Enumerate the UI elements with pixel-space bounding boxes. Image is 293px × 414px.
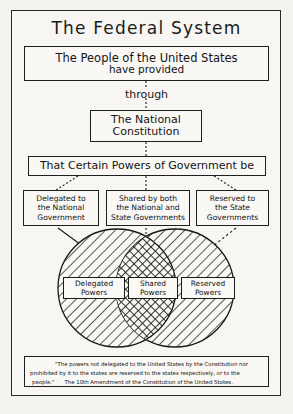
quote-line1: "The powers not delegated to the United …: [55, 361, 248, 367]
quote-line3: people.": [32, 379, 54, 385]
connector-powers-to-delegated: [56, 176, 78, 190]
venn-shared-line1: Shared: [140, 279, 166, 288]
connector-powers-to-reserved: [214, 176, 236, 190]
venn-label-reserved: Reserved Powers: [181, 277, 235, 299]
quote-line4: The 10th Amendment of the Constitution o…: [64, 379, 232, 385]
venn-label-delegated: Delegated Powers: [63, 277, 125, 299]
venn-shared-line2: Powers: [140, 288, 166, 297]
venn-reserved-line1: Reserved: [191, 279, 225, 288]
venn-delegated-line1: Delegated: [75, 279, 113, 288]
quote-line2: prohibited by it to the states are reser…: [30, 370, 240, 376]
amendment-quote-box: "The powers not delegated to the United …: [24, 356, 269, 387]
venn-label-shared: Shared Powers: [128, 277, 178, 299]
venn-reserved-line2: Powers: [195, 288, 221, 297]
poster-canvas: The Federal System The People of the Uni…: [0, 0, 293, 414]
venn-delegated-line2: Powers: [81, 288, 107, 297]
